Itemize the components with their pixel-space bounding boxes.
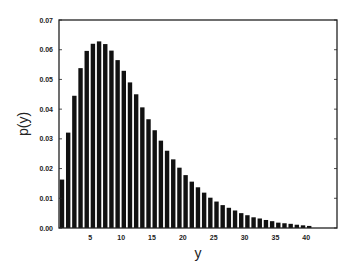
y-tick-label: 0.07 (39, 17, 53, 24)
x-axis-title: y (195, 245, 202, 261)
bar (227, 208, 231, 228)
bar-chart: 0.000.010.020.030.040.050.060.07 5101520… (0, 0, 351, 270)
bars (60, 41, 312, 228)
bar (109, 51, 113, 228)
bar (72, 96, 76, 228)
x-tick-label: 5 (88, 234, 92, 241)
bar (264, 220, 268, 228)
y-axis: 0.000.010.020.030.040.050.060.07 (39, 17, 337, 232)
bar (122, 71, 126, 228)
bar (128, 82, 132, 228)
bar (245, 215, 249, 228)
bar (183, 175, 187, 228)
y-tick-label: 0.05 (39, 76, 53, 83)
bar (78, 68, 82, 228)
bar (85, 51, 89, 228)
bar (60, 180, 64, 228)
x-tick-label: 20 (179, 234, 187, 241)
bar (251, 217, 255, 228)
y-tick-label: 0.01 (39, 195, 53, 202)
x-tick-label: 25 (210, 234, 218, 241)
x-axis: 510152025303540 (88, 234, 310, 241)
bar (208, 198, 212, 228)
bar (202, 193, 206, 228)
bar (190, 182, 194, 228)
y-tick-label: 0.03 (39, 135, 53, 142)
bar (233, 210, 237, 228)
bar (258, 218, 262, 228)
bar (153, 130, 157, 228)
bar (66, 133, 70, 228)
bar (220, 205, 224, 228)
x-tick-label: 15 (148, 234, 156, 241)
bar (159, 141, 163, 228)
bar (165, 151, 169, 228)
x-tick-label: 30 (241, 234, 249, 241)
x-tick-label: 35 (272, 234, 280, 241)
bar (171, 159, 175, 228)
bar (214, 202, 218, 228)
bar (140, 107, 144, 228)
x-tick-label: 40 (302, 234, 310, 241)
bar (239, 213, 243, 228)
bar (270, 221, 274, 228)
bar (196, 187, 200, 228)
y-tick-label: 0.00 (39, 225, 53, 232)
bar (115, 60, 119, 228)
y-tick-label: 0.02 (39, 165, 53, 172)
bar (91, 44, 95, 228)
bar (177, 168, 181, 228)
bar (276, 223, 280, 228)
bar (146, 119, 150, 228)
y-tick-label: 0.04 (39, 106, 53, 113)
x-tick-label: 10 (117, 234, 125, 241)
y-tick-label: 0.06 (39, 46, 53, 53)
bar (282, 223, 286, 228)
bar (103, 44, 107, 228)
bar (134, 94, 138, 228)
y-axis-title: p(y) (15, 112, 31, 136)
bar (97, 41, 101, 228)
